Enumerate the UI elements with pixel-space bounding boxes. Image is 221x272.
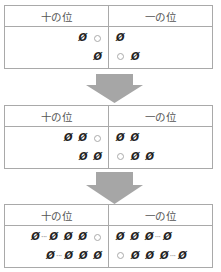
place-value-table-stage-3: 十の位 一の位 Ø···ØØØØ···ØØØ ØØØ···ØØØØ···Ø — [4, 204, 213, 268]
tens-row-1: ØØ — [61, 129, 105, 147]
empty-set-icon: Ø — [78, 32, 87, 44]
empty-set-icon: Ø — [131, 151, 140, 163]
ellipsis-icon: ··· — [155, 231, 161, 243]
ones-row-2: ØØØ···Ø — [113, 247, 190, 265]
place-value-table-stage-1: 十の位 一の位 ØØ ØØ — [4, 5, 213, 69]
empty-set-icon: Ø — [131, 51, 140, 63]
empty-set-icon: Ø — [131, 132, 140, 144]
down-arrow-icon — [86, 172, 143, 204]
table-body: Ø···ØØØØ···ØØØ ØØØ···ØØØØ···Ø — [5, 226, 212, 267]
tens-place-header: 十の位 — [5, 106, 109, 126]
tens-column: Ø···ØØØØ···ØØØ — [5, 226, 109, 267]
tens-place-header: 十の位 — [5, 6, 109, 26]
empty-set-icon: Ø — [145, 231, 154, 243]
ones-row-1: ØØ — [113, 129, 142, 147]
tens-row-2: ØØ — [76, 148, 105, 166]
table-header: 十の位 一の位 — [5, 106, 212, 127]
circle-icon — [117, 153, 124, 160]
empty-set-icon: Ø — [131, 231, 140, 243]
empty-set-icon: Ø — [64, 132, 73, 144]
empty-set-icon: Ø — [64, 250, 73, 262]
empty-set-icon: Ø — [160, 250, 169, 262]
tens-column: ØØØØ — [5, 127, 109, 168]
tens-column: ØØ — [5, 27, 109, 68]
empty-set-icon: Ø — [116, 132, 125, 144]
ones-column: ØØØØ — [109, 127, 212, 168]
table-header: 十の位 一の位 — [5, 205, 212, 226]
ones-row-1: Ø — [113, 29, 128, 47]
empty-set-icon: Ø — [78, 132, 87, 144]
empty-set-icon: Ø — [79, 250, 88, 262]
empty-set-icon: Ø — [49, 231, 58, 243]
ellipsis-icon: ··· — [41, 231, 47, 243]
tens-row-2: Ø···ØØØ — [43, 247, 105, 265]
ones-column: ØØ — [109, 27, 212, 68]
tens-row-2: Ø — [90, 48, 105, 66]
empty-set-icon: Ø — [93, 51, 102, 63]
circle-icon — [117, 252, 124, 259]
table-header: 十の位 一の位 — [5, 6, 212, 27]
ones-row-1: ØØØ···Ø — [113, 228, 175, 246]
ones-column: ØØØ···ØØØØ···Ø — [109, 226, 212, 267]
empty-set-icon: Ø — [163, 231, 172, 243]
ones-place-header: 一の位 — [109, 205, 212, 225]
empty-set-icon: Ø — [79, 151, 88, 163]
empty-set-icon: Ø — [93, 250, 102, 262]
circle-icon — [94, 234, 101, 241]
tens-row-1: Ø — [75, 29, 105, 47]
ones-row-2: Ø — [113, 48, 143, 66]
table-body: ØØØØ ØØØØ — [5, 127, 212, 168]
circle-icon — [94, 35, 101, 42]
ones-place-header: 一の位 — [109, 106, 212, 126]
down-arrow-icon — [86, 74, 143, 103]
down-arrow-2 — [86, 172, 143, 204]
empty-set-icon: Ø — [64, 231, 73, 243]
table-body: ØØ ØØ — [5, 27, 212, 68]
empty-set-icon: Ø — [78, 231, 87, 243]
empty-set-icon: Ø — [46, 250, 55, 262]
circle-icon — [117, 53, 124, 60]
empty-set-icon: Ø — [131, 250, 140, 262]
empty-set-icon: Ø — [178, 250, 187, 262]
down-arrow-1 — [86, 74, 143, 103]
tens-place-header: 十の位 — [5, 205, 109, 225]
empty-set-icon: Ø — [146, 151, 155, 163]
empty-set-icon: Ø — [93, 151, 102, 163]
ellipsis-icon: ··· — [56, 250, 62, 262]
tens-row-1: Ø···ØØØ — [28, 228, 105, 246]
circle-icon — [94, 135, 101, 142]
empty-set-icon: Ø — [116, 231, 125, 243]
empty-set-icon: Ø — [31, 231, 40, 243]
empty-set-icon: Ø — [116, 32, 125, 44]
place-value-table-stage-2: 十の位 一の位 ØØØØ ØØØØ — [4, 105, 213, 169]
ones-row-2: ØØ — [113, 148, 157, 166]
empty-set-icon: Ø — [146, 250, 155, 262]
ones-place-header: 一の位 — [109, 6, 212, 26]
ellipsis-icon: ··· — [170, 250, 176, 262]
